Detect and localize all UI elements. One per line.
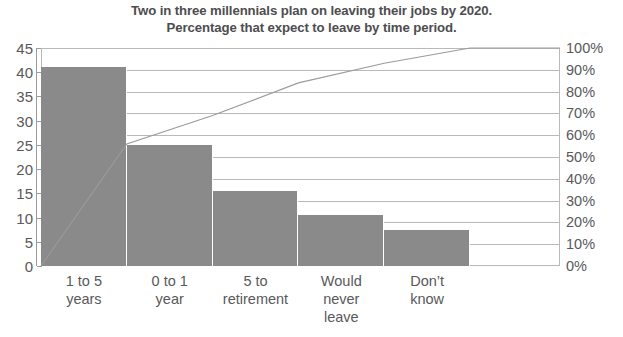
- x-axis-label-line: never: [298, 290, 384, 308]
- plot-area: [41, 48, 560, 266]
- x-axis-label: Wouldneverleave: [298, 272, 384, 326]
- y-axis-left-tick-label: 20: [16, 162, 33, 177]
- x-axis-label: 0 to 1year: [127, 272, 213, 308]
- y-axis-right-tick-label: 100%: [566, 41, 603, 56]
- y-axis-right-tick-label: 70%: [566, 106, 595, 121]
- x-axis-label-line: retirement: [213, 290, 299, 308]
- x-axis-label: 5 toretirement: [213, 272, 299, 308]
- cumulative-line-chart: [41, 48, 560, 266]
- y-axis-right-tick-label: 20%: [566, 215, 595, 230]
- y-axis-right-tick-label: 40%: [566, 172, 595, 187]
- chart-title: Two in three millennials plan on leaving…: [0, 2, 623, 36]
- y-axis-right-tick-label: 60%: [566, 128, 595, 143]
- x-axis-label: Don’tknow: [384, 272, 470, 308]
- y-axis-right-tick-label: 50%: [566, 150, 595, 165]
- pareto-chart: Two in three millennials plan on leaving…: [0, 0, 623, 337]
- y-axis-right-tick-label: 30%: [566, 193, 595, 208]
- y-axis-right-labels: 0%10%20%30%40%50%60%70%80%90%100%: [566, 48, 623, 266]
- y-axis-left-tick-label: 10: [16, 210, 33, 225]
- y-axis-left-tick-label: 35: [16, 89, 33, 104]
- y-axis-left-tick-label: 5: [25, 234, 33, 249]
- y-axis-left-tick-label: 40: [16, 65, 33, 80]
- y-axis-right-tick-label: 10%: [566, 237, 595, 252]
- x-axis-label-line: year: [127, 290, 213, 308]
- x-axis-label-line: 5 to: [213, 272, 299, 290]
- y-axis-right-tick-label: 90%: [566, 63, 595, 78]
- y-axis-left-tick-label: 45: [16, 41, 33, 56]
- x-axis-label-line: Would: [298, 272, 384, 290]
- x-axis-label-line: years: [41, 290, 127, 308]
- y-axis-left-tick-label: 15: [16, 186, 33, 201]
- x-axis-label-line: 0 to 1: [127, 272, 213, 290]
- y-axis-left-tick-label: 0: [25, 259, 33, 274]
- y-axis-left-tick-label: 25: [16, 137, 33, 152]
- x-axis-labels: 1 to 5years0 to 1year5 toretirementWould…: [41, 272, 560, 334]
- x-axis-label-line: Don’t: [384, 272, 470, 290]
- y-axis-right-tick-label: 0%: [566, 259, 587, 274]
- x-axis-label-line: know: [384, 290, 470, 308]
- y-axis-left-labels: 051015202530354045: [0, 48, 33, 266]
- y-axis-left-tick-label: 30: [16, 113, 33, 128]
- x-axis-label-line: leave: [298, 308, 384, 326]
- x-axis-label-line: 1 to 5: [41, 272, 127, 290]
- x-axis-label: 1 to 5years: [41, 272, 127, 308]
- chart-title-line-2: Percentage that expect to leave by time …: [0, 19, 623, 36]
- y-axis-right-tick-label: 80%: [566, 84, 595, 99]
- chart-title-line-1: Two in three millennials plan on leaving…: [0, 2, 623, 19]
